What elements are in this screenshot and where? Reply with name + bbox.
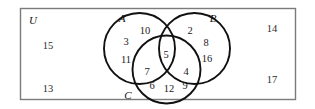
universal-set-label: U bbox=[29, 15, 37, 26]
region-c-only-value-12: 12 bbox=[164, 84, 175, 95]
region-outside-value-17: 17 bbox=[267, 75, 278, 86]
region-a-only-value-11: 11 bbox=[121, 55, 131, 66]
set-label-a: A bbox=[119, 13, 126, 24]
region-a-only-value-10: 10 bbox=[140, 26, 151, 37]
region-a-b-c-value-5: 5 bbox=[163, 50, 168, 61]
region-outside-value-15: 15 bbox=[43, 41, 54, 52]
region-b-only-value-2: 2 bbox=[187, 26, 192, 37]
region-c-only-value-9: 9 bbox=[182, 81, 187, 92]
region-b-and-c-value-4: 4 bbox=[183, 67, 188, 78]
region-c-only-value-6: 6 bbox=[149, 81, 154, 92]
region-a-only-value-3: 3 bbox=[123, 37, 128, 48]
region-a-and-c-value-7: 7 bbox=[144, 67, 149, 78]
region-outside-value-13: 13 bbox=[43, 84, 54, 95]
universal-set-rectangle bbox=[21, 9, 296, 100]
region-b-only-value-8: 8 bbox=[203, 38, 208, 49]
region-b-only-value-16: 16 bbox=[202, 54, 213, 65]
set-label-b: B bbox=[210, 13, 217, 24]
region-outside-value-14: 14 bbox=[267, 24, 278, 35]
set-label-c: C bbox=[124, 90, 131, 101]
venn-diagram-figure: A B C U 10 3 11 2 8 16 6 12 9 7 4 5 15 1… bbox=[0, 0, 315, 109]
